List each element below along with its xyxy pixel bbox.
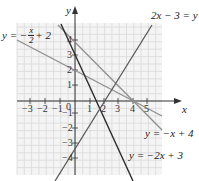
x-tick-label: 2 bbox=[101, 104, 106, 114]
y-axis-arrow-icon bbox=[72, 6, 78, 14]
y-tick-label: −2 bbox=[62, 123, 73, 133]
fraction-denominator: 2 bbox=[29, 36, 34, 45]
label-suffix: + 2 bbox=[35, 30, 51, 41]
label-line-2x-minus-3: 2x − 3 = y bbox=[151, 10, 198, 21]
y-tick-label: 3 bbox=[67, 50, 72, 60]
x-axis-label: x bbox=[182, 104, 187, 115]
x-tick-label: 4 bbox=[130, 104, 135, 114]
fraction: x 2 bbox=[28, 26, 34, 45]
label-prefix: y = − bbox=[2, 30, 27, 41]
x-tick-label: −3 bbox=[22, 104, 33, 114]
x-tick-label: 3 bbox=[115, 104, 120, 114]
x-tick-label: −2 bbox=[37, 104, 48, 114]
y-tick-label: 1 bbox=[67, 80, 72, 90]
y-axis-label: y bbox=[66, 5, 71, 16]
y-tick-label: −3 bbox=[62, 138, 73, 148]
y-tick-label: −4 bbox=[62, 153, 73, 163]
label-line-neg-2x-plus-3: y = −2x + 3 bbox=[129, 150, 183, 161]
y-tick-label: 2 bbox=[67, 65, 72, 75]
x-axis-arrow-icon bbox=[174, 98, 182, 104]
x-tick-label: 5 bbox=[144, 104, 149, 114]
origin-label: 0 bbox=[66, 102, 71, 112]
label-line-neg-half-x-plus-2: y = − x 2 + 2 bbox=[2, 26, 51, 45]
y-tick-label: 4 bbox=[67, 35, 72, 45]
label-line-neg-x-plus-4: y = −x + 4 bbox=[145, 128, 194, 139]
x-tick-label: 1 bbox=[87, 104, 92, 114]
